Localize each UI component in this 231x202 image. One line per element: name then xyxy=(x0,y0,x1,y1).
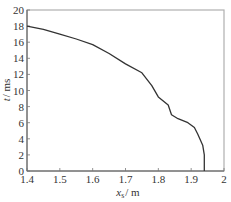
svg-text:xs/ m: xs/ m xyxy=(115,186,140,200)
plot-border xyxy=(27,10,224,171)
x-tick-label: 1.8 xyxy=(151,173,165,185)
x-tick-label: 1.9 xyxy=(184,173,198,185)
y-tick-label: 16 xyxy=(13,36,25,48)
y-tick-label: 4 xyxy=(19,133,25,145)
y-tick-label: 18 xyxy=(13,20,25,32)
y-tick-label: 14 xyxy=(13,52,25,64)
y-tick-label: 10 xyxy=(13,85,25,97)
x-tick-label: 1.6 xyxy=(86,173,100,185)
axis-ticks: 1.41.51.61.71.81.9202468101214161820 xyxy=(13,4,227,185)
y-tick-label: 12 xyxy=(13,68,24,80)
plot-frame xyxy=(27,10,224,171)
y-tick-label: 6 xyxy=(19,117,25,129)
y-tick-label: 2 xyxy=(19,149,25,161)
line-chart: 1.41.51.61.71.81.9202468101214161820 xs/… xyxy=(0,0,231,202)
data-series xyxy=(27,26,204,171)
svg-text:t/ ms: t/ ms xyxy=(0,79,12,102)
y-tick-label: 20 xyxy=(13,4,25,16)
x-tick-label: 1.5 xyxy=(53,173,67,185)
x-axis-label: xs/ m xyxy=(115,186,140,200)
x-tick-label: 1.7 xyxy=(119,173,133,185)
y-tick-label: 8 xyxy=(19,101,25,113)
series-line xyxy=(27,26,204,171)
y-tick-label: 0 xyxy=(19,165,25,177)
y-axis-label: t/ ms xyxy=(0,79,12,102)
x-tick-label: 2 xyxy=(221,173,227,185)
